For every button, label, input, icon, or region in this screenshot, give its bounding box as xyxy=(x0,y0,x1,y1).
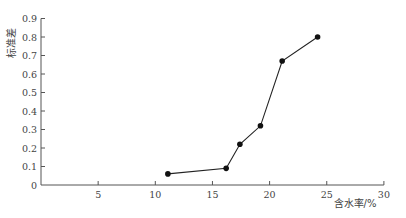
x-tick-label: 15 xyxy=(206,189,218,200)
y-tick-label: 0.5 xyxy=(22,87,37,98)
y-tick-label: 0.4 xyxy=(22,106,37,117)
data-point-marker xyxy=(315,34,321,40)
y-tick-label: 0.2 xyxy=(22,143,37,154)
axes xyxy=(41,19,384,186)
y-tick-label: 0.3 xyxy=(22,124,37,135)
x-axis-title: 含水率/% xyxy=(334,197,377,209)
y-axis-ticks: 00.10.20.30.40.50.60.70.80.9 xyxy=(22,13,45,191)
data-series xyxy=(165,34,320,177)
x-tick-label: 30 xyxy=(378,189,390,200)
standard-deviation-vs-moisture-chart: 51015202530 00.10.20.30.40.50.60.70.80.9… xyxy=(0,0,406,218)
data-point-marker xyxy=(279,58,285,64)
y-axis-title: 标准差 xyxy=(5,28,17,58)
x-tick-label: 20 xyxy=(264,189,276,200)
y-tick-label: 0.1 xyxy=(22,161,37,172)
y-tick-label: 0.6 xyxy=(22,69,37,80)
x-tick-label: 5 xyxy=(95,189,101,200)
data-point-marker xyxy=(223,166,229,172)
series-line xyxy=(168,37,318,174)
data-point-marker xyxy=(258,123,264,129)
x-tick-label: 10 xyxy=(149,189,161,200)
data-point-marker xyxy=(237,142,243,148)
data-point-marker xyxy=(165,171,171,177)
y-tick-label: 0 xyxy=(31,180,37,191)
y-tick-label: 0.8 xyxy=(22,32,37,43)
y-tick-label: 0.9 xyxy=(22,13,37,24)
x-tick-label: 25 xyxy=(321,189,333,200)
y-tick-label: 0.7 xyxy=(22,50,37,61)
